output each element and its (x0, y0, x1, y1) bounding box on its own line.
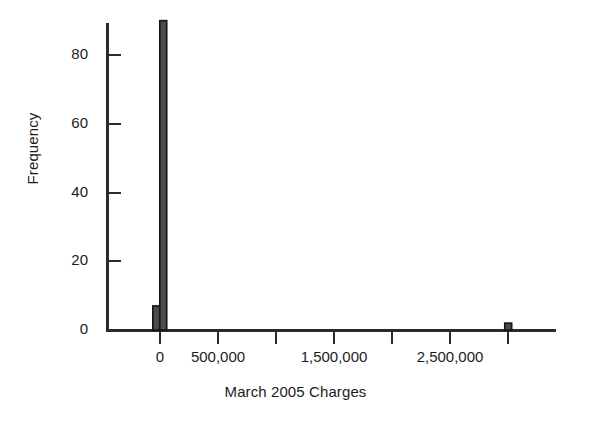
y-tick-label: 60 (28, 114, 88, 131)
y-tick-label: 20 (28, 251, 88, 268)
y-tick-label: 80 (28, 45, 88, 62)
y-tick-label: 0 (28, 320, 88, 337)
x-tick-marks (160, 331, 508, 345)
y-tick-label: 40 (28, 183, 88, 200)
chart-figure: Frequency March 2005 Charges 020406080 0… (0, 0, 591, 429)
histogram-bar (160, 21, 167, 330)
axes-group (106, 23, 556, 331)
y-tick-marks (108, 55, 122, 330)
histogram-bar (153, 306, 160, 330)
x-tick-label: 2,500,000 (370, 348, 530, 365)
histogram-bars (153, 21, 512, 330)
histogram-bar (505, 323, 512, 330)
x-axis-label: March 2005 Charges (0, 383, 591, 400)
